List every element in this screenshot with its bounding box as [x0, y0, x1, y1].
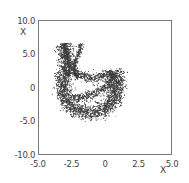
x-tick-label-2-5: 2.5: [124, 159, 154, 169]
x-tick-label-neg2-5: -2.5: [57, 159, 87, 169]
scatter-points-layer: [39, 21, 171, 154]
y-tick-label-0: 0: [1, 83, 35, 93]
y-tick-label-neg5: -5.0: [1, 116, 35, 126]
x-tick-label-neg5: -5.0: [23, 159, 53, 169]
y-tick-label-10: 10.0: [1, 16, 35, 26]
scatter-plot-figure: X 10.0 5.0 0 -5.0 -10.0 -5.0 -2.5 0 2.5 …: [0, 0, 189, 183]
x-axis-label: X: [160, 165, 166, 175]
plot-area: [38, 20, 172, 155]
x-tick-label-0: 0: [90, 159, 120, 169]
y-axis-label: X: [20, 27, 26, 37]
y-tick-label-5: 5.0: [1, 49, 35, 59]
